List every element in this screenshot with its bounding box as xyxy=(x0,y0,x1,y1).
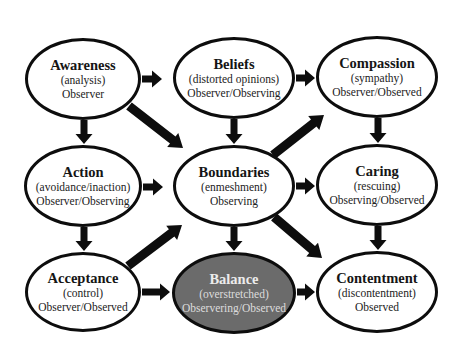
arrow-action-to-acceptance xyxy=(76,227,93,251)
node-boundaries: Boundaries (enmeshment) Observing xyxy=(173,145,295,227)
node-beliefs: Beliefs (distorted opinions) Observer/Ob… xyxy=(173,37,295,119)
arrow-awareness-to-beliefs xyxy=(142,71,162,88)
arrow-acceptance-to-boundaries xyxy=(125,225,182,270)
node-role: Observer/Observed xyxy=(332,85,421,99)
arrow-boundaries-to-caring xyxy=(296,178,315,195)
node-title: Boundaries xyxy=(199,164,270,180)
node-title: Caring xyxy=(355,163,399,179)
node-subtitle: (distorted opinions) xyxy=(189,72,279,86)
node-title: Compassion xyxy=(339,55,415,71)
node-awareness: Awareness (analysis) Observer xyxy=(25,38,141,120)
node-role: Observer xyxy=(62,87,104,101)
node-subtitle: (discontentment) xyxy=(338,286,416,300)
node-subtitle: (overstretched) xyxy=(199,287,269,301)
node-title: Acceptance xyxy=(48,270,119,286)
node-contentment: Contentment (discontentment) Observed xyxy=(316,251,438,333)
node-subtitle: (analysis) xyxy=(61,73,106,87)
node-subtitle: (rescuing) xyxy=(354,179,401,193)
node-subtitle: (control) xyxy=(63,286,103,300)
arrow-acceptance-to-balance xyxy=(142,284,170,301)
node-caring: Caring (rescuing) Observing/Observed xyxy=(316,144,438,226)
arrow-boundaries-to-balance xyxy=(226,227,243,251)
node-role: Observing/Observed xyxy=(329,193,424,207)
node-title: Action xyxy=(62,164,103,180)
node-role: Observering/Observed xyxy=(182,301,286,315)
node-title: Beliefs xyxy=(213,56,254,72)
node-role: Observer/Observing xyxy=(187,86,280,100)
node-role: Observer/Observed xyxy=(38,300,127,314)
node-balance: Balance (overstretched) Observering/Obse… xyxy=(172,252,296,334)
arrow-awareness-to-boundaries xyxy=(126,102,183,148)
arrow-awareness-to-action xyxy=(76,120,93,144)
arrow-compassion-to-caring xyxy=(370,118,387,143)
arrow-boundaries-to-compassion xyxy=(270,115,324,159)
node-subtitle: (sympathy) xyxy=(351,71,403,85)
node-title: Balance xyxy=(209,271,258,287)
arrow-boundaries-to-contentment xyxy=(271,214,322,258)
node-title: Awareness xyxy=(50,57,116,73)
node-acceptance: Acceptance (control) Observer/Observed xyxy=(25,252,141,332)
node-role: Observed xyxy=(355,300,399,314)
node-action: Action (avoidance/inaction) Observer/Obs… xyxy=(24,145,142,227)
node-role: Observer/Observing xyxy=(36,194,129,208)
arrow-beliefs-to-boundaries xyxy=(226,119,243,144)
arrow-balance-to-contentment xyxy=(297,284,315,301)
arrow-action-to-boundaries xyxy=(143,179,163,196)
node-title: Contentment xyxy=(336,270,417,286)
arrow-caring-to-contentment xyxy=(370,226,387,250)
node-subtitle: (enmeshment) xyxy=(201,180,267,194)
node-compassion: Compassion (sympathy) Observer/Observed xyxy=(316,36,438,118)
arrow-beliefs-to-compassion xyxy=(296,70,315,87)
node-subtitle: (avoidance/inaction) xyxy=(36,180,131,194)
node-role: Observing xyxy=(210,194,258,208)
